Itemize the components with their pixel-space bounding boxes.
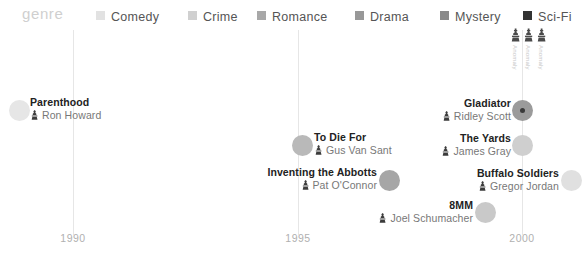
legend-swatch-icon: [523, 11, 532, 20]
point-label-director: Ridley Scott: [0, 110, 511, 123]
point-label-director: Joel Schumacher: [0, 212, 473, 225]
chess-piece-icon: [378, 213, 387, 223]
point-label-director: Gregor Jordan: [0, 180, 559, 193]
legend-item-label: Sci-Fi: [538, 10, 572, 24]
chess-piece-icon: [441, 146, 450, 156]
point-label-director: James Gray: [0, 145, 511, 158]
legend-item-sci-fi[interactable]: Sci-Fi: [523, 7, 572, 23]
legend-swatch-icon: [257, 11, 266, 20]
legend-item-label: Crime: [203, 10, 238, 24]
legend-swatch-icon: [440, 11, 449, 20]
point-label-title: Gladiator: [0, 97, 511, 110]
cluster-rotated-label: Anomaly: [538, 45, 544, 70]
point-label-title: Buffalo Soldiers: [0, 167, 559, 180]
legend-item-label: Romance: [272, 10, 328, 24]
legend-item-comedy[interactable]: Comedy: [96, 7, 159, 23]
legend-item-mystery[interactable]: Mystery: [440, 7, 501, 23]
legend-item-label: Comedy: [111, 10, 159, 24]
director-name: James Gray: [453, 145, 511, 157]
x-tick-label: 1990: [60, 232, 85, 244]
legend-item-label: Drama: [370, 10, 409, 24]
data-point-marker[interactable]: [475, 202, 496, 223]
legend-swatch-icon: [96, 11, 105, 20]
data-point-marker[interactable]: [512, 100, 533, 121]
point-label-title: The Yards: [0, 132, 511, 145]
data-point-marker[interactable]: [561, 170, 582, 191]
plot-area: AnomalyAnomalyAnomaly ParenthoodRon Howa…: [0, 30, 587, 230]
point-label[interactable]: 8MMJoel Schumacher: [0, 199, 473, 225]
point-label-title: 8MM: [0, 199, 473, 212]
point-label[interactable]: Buffalo SoldiersGregor Jordan: [0, 167, 559, 193]
data-point-core: [520, 108, 525, 113]
legend-title: genre: [22, 5, 63, 22]
cluster-rotated-label: Anomaly: [525, 45, 531, 70]
legend-item-label: Mystery: [455, 10, 501, 24]
director-name: Joel Schumacher: [390, 212, 473, 224]
legend-swatch-icon: [355, 11, 364, 20]
chess-piece-icon[interactable]: [523, 28, 536, 44]
cluster-rotated-label: Anomaly: [512, 45, 518, 70]
timeline-chart: genre ComedyCrimeRomanceDramaMysterySci-…: [0, 0, 587, 260]
director-name: Ridley Scott: [454, 110, 511, 122]
x-tick-label: 2000: [509, 232, 534, 244]
gridline-2000: [522, 30, 523, 235]
data-point-marker[interactable]: [512, 135, 533, 156]
legend-item-crime[interactable]: Crime: [188, 7, 238, 23]
x-tick-label: 1995: [285, 232, 310, 244]
point-label[interactable]: The YardsJames Gray: [0, 132, 511, 158]
chess-piece-icon: [442, 111, 451, 121]
legend-item-drama[interactable]: Drama: [355, 7, 409, 23]
point-label[interactable]: GladiatorRidley Scott: [0, 97, 511, 123]
director-name: Gregor Jordan: [490, 180, 559, 192]
chess-piece-icon[interactable]: [536, 28, 549, 44]
x-axis: 199019952000: [0, 232, 587, 252]
chess-piece-icon[interactable]: [510, 28, 523, 44]
legend-swatch-icon: [188, 11, 197, 20]
legend: genre ComedyCrimeRomanceDramaMysterySci-…: [0, 0, 587, 30]
legend-item-romance[interactable]: Romance: [257, 7, 328, 23]
chess-piece-icon: [478, 181, 487, 191]
